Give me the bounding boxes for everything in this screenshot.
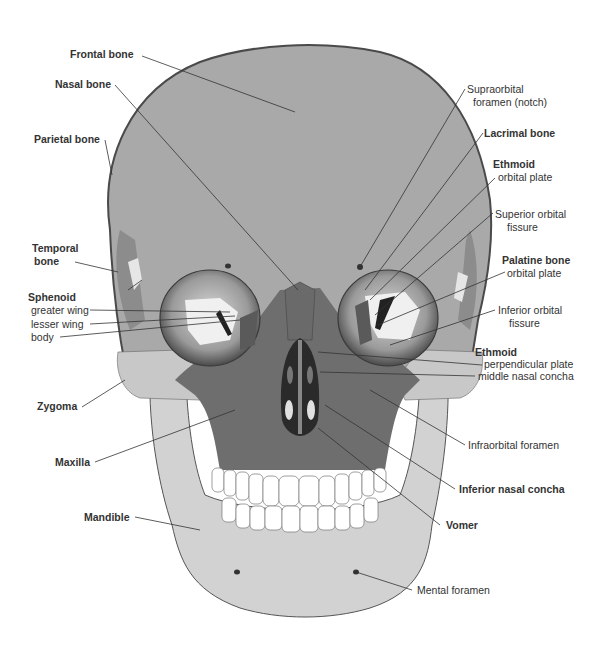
label-sphenoid: Sphenoid bbox=[28, 291, 76, 304]
label-sphenoid-greater-wing: greater wing bbox=[31, 304, 89, 317]
label-temporal-bone-line2: bone bbox=[34, 255, 59, 268]
label-frontal-bone: Frontal bone bbox=[70, 48, 134, 61]
skull-diagram: Frontal bone Nasal bone Parietal bone Te… bbox=[0, 0, 605, 650]
label-vomer: Vomer bbox=[446, 519, 478, 532]
label-sphenoid-lesser-wing: lesser wing bbox=[31, 318, 84, 331]
label-temporal-bone-line1: Temporal bbox=[32, 242, 78, 255]
label-mental-foramen: Mental foramen bbox=[417, 584, 490, 597]
label-zygoma: Zygoma bbox=[37, 400, 77, 413]
label-nasal-bone: Nasal bone bbox=[55, 78, 111, 91]
label-ethmoid-orbital-plate: orbital plate bbox=[498, 171, 552, 184]
label-inferior-orbital-line1: Inferior orbital bbox=[498, 304, 562, 317]
label-superior-orbital-line2: fissure bbox=[507, 221, 538, 234]
label-ethmoid-middle-nasal-concha: middle nasal concha bbox=[478, 370, 574, 383]
label-palatine-orbital-plate: orbital plate bbox=[507, 267, 561, 280]
label-inferior-nasal-concha: Inferior nasal concha bbox=[459, 483, 565, 496]
label-lacrimal-bone: Lacrimal bone bbox=[484, 127, 555, 140]
label-supraorbital-line2: foramen (notch) bbox=[473, 96, 547, 109]
nasal-bone-shape bbox=[285, 282, 315, 340]
label-mandible: Mandible bbox=[84, 511, 130, 524]
teeth bbox=[212, 468, 386, 532]
label-palatine-bone: Palatine bone bbox=[502, 254, 570, 267]
label-sphenoid-body: body bbox=[31, 331, 54, 344]
label-infraorbital-foramen: Infraorbital foramen bbox=[468, 439, 559, 452]
label-parietal-bone: Parietal bone bbox=[34, 133, 100, 146]
label-maxilla: Maxilla bbox=[55, 456, 90, 469]
label-supraorbital-line1: Supraorbital bbox=[467, 83, 524, 96]
label-superior-orbital-line1: Superior orbital bbox=[495, 208, 566, 221]
label-inferior-orbital-line2: fissure bbox=[509, 317, 540, 330]
label-ethmoid: Ethmoid bbox=[493, 158, 535, 171]
